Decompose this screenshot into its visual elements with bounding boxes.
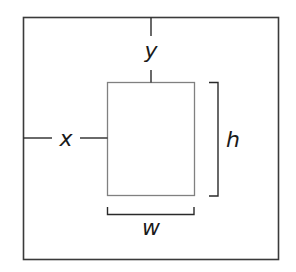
x-offset-indicator: x xyxy=(24,126,108,151)
y-label: y xyxy=(143,38,158,63)
x-label: x xyxy=(58,126,73,151)
bounding-box-diagram: y x h w xyxy=(0,0,296,272)
y-offset-indicator: y xyxy=(143,18,158,83)
width-dimension-bracket: w xyxy=(108,207,195,240)
h-label: h xyxy=(226,127,240,152)
height-dimension-bracket: h xyxy=(209,83,240,197)
height-bracket-line xyxy=(209,83,218,197)
w-label: w xyxy=(142,215,161,240)
inner-element-box xyxy=(108,83,195,196)
width-bracket-line xyxy=(108,207,195,215)
